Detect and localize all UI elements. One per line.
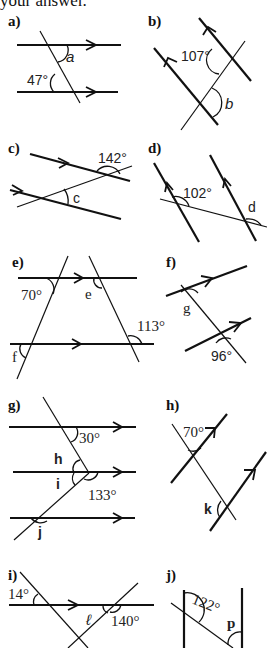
transversal-line: [14, 473, 89, 540]
problem-d-label: d): [148, 140, 161, 157]
angle-arc: [72, 473, 75, 485]
angle-arc: [181, 289, 198, 293]
problem-j: j) 122° p: [165, 567, 242, 648]
unknown-angle-f: f: [12, 349, 17, 365]
given-angle: 96°: [211, 348, 232, 364]
problem-c-label: c): [8, 140, 20, 157]
problem-a-label: a): [8, 13, 21, 30]
given-angle: 122°: [190, 591, 222, 617]
problem-e-label: e): [12, 254, 24, 271]
given-angle: 107°: [181, 48, 210, 64]
given-angle: 70°: [21, 287, 42, 303]
angle-arc: [212, 88, 222, 117]
given-angle: 142°: [98, 150, 127, 166]
unknown-angle-h: h: [54, 451, 63, 467]
problem-i-label: i): [8, 567, 17, 584]
problem-d: d) 102° d: [148, 140, 267, 242]
angle-arc: [50, 74, 55, 92]
parallel-line: [210, 155, 256, 241]
problem-b: b) 107° b: [148, 13, 251, 130]
unknown-angle-c: c: [73, 190, 80, 206]
parallel-arrow-icon: [164, 58, 177, 67]
problem-e: e) 70° e 113° f: [10, 254, 165, 379]
parallel-line: [210, 452, 266, 531]
angle-arc: [94, 278, 102, 288]
given-angle: 102°: [183, 185, 212, 201]
unknown-angle-p: p: [227, 615, 235, 631]
problem-j-label: j): [165, 567, 176, 584]
unknown-angle-a: a: [66, 48, 74, 65]
angle-arc: [34, 594, 38, 605]
given-angle: 140°: [111, 613, 140, 629]
unknown-angle-g: g: [183, 300, 191, 316]
unknown-angle-i: i: [56, 476, 60, 492]
problem-b-label: b): [148, 13, 161, 30]
problem-h-label: h): [166, 397, 179, 414]
transversal-line: [17, 256, 68, 379]
transversal-line: [89, 256, 139, 362]
unknown-angle-l: ℓ: [85, 611, 92, 628]
given-angle: 30°: [79, 430, 100, 446]
parallel-line: [154, 163, 199, 242]
angle-arc: [71, 427, 78, 442]
angle-arc: [228, 632, 242, 645]
problem-c: c) 142° c: [8, 140, 132, 219]
problem-i: i) 14° ℓ 140°: [8, 567, 154, 648]
parallel-line: [166, 266, 247, 296]
angle-problems-diagram: a) a 47° b) 107° b c) 142° c: [0, 0, 267, 648]
problem-f-label: f): [166, 254, 176, 271]
given-angle: 113°: [137, 318, 165, 334]
unknown-angle-d: d: [248, 199, 256, 215]
unknown-angle-e: e: [85, 286, 92, 302]
angle-arc: [20, 344, 26, 358]
problem-h: h) 70° k: [166, 397, 266, 531]
problem-a: a) a 47°: [8, 13, 121, 103]
angle-arc: [64, 189, 68, 204]
problem-g-label: g): [8, 397, 21, 414]
given-angle: 133°: [88, 487, 117, 503]
unknown-angle-j: j: [37, 524, 42, 540]
unknown-angle-b: b: [225, 95, 233, 112]
given-angle: 14°: [8, 586, 29, 602]
problem-g: g) 30° h i 133° j: [8, 397, 136, 540]
parallel-line: [10, 190, 121, 219]
unknown-angle-k: k: [204, 501, 212, 517]
problem-f: f) g 96°: [166, 254, 251, 364]
transversal-line: [20, 572, 88, 648]
given-angle: 47°: [27, 72, 48, 88]
given-angle: 70°: [183, 424, 204, 440]
